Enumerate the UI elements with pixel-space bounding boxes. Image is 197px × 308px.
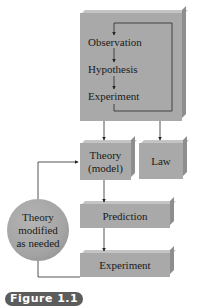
law-box: Law xyxy=(139,143,183,179)
figure-label: Figure 1.1 xyxy=(5,292,83,306)
theory-label: Theory xyxy=(90,149,122,162)
prediction-box: Prediction xyxy=(80,204,170,228)
step-observation: Observation xyxy=(88,36,142,48)
circle-line2: modified xyxy=(16,224,59,237)
theory-modified-circle: Theory modified as needed xyxy=(7,199,69,261)
theory-model-box: Theory (model) xyxy=(80,143,131,180)
step-experiment: Experiment xyxy=(88,90,139,102)
step-hypothesis: Hypothesis xyxy=(88,63,138,75)
model-label: (model) xyxy=(88,162,123,175)
circle-line3: as needed xyxy=(16,237,59,250)
experiment-label: Experiment xyxy=(99,259,150,272)
experiment-box: Experiment xyxy=(80,253,170,277)
prediction-label: Prediction xyxy=(102,210,147,223)
law-label: Law xyxy=(151,155,171,168)
circle-line1: Theory xyxy=(16,211,59,224)
